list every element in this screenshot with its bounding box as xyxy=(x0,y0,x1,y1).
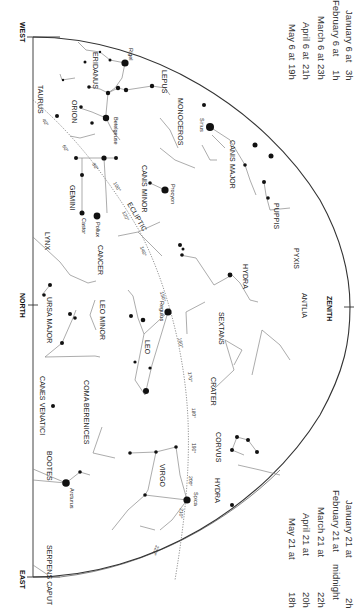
constellation-label: URSA MAJOR xyxy=(46,297,53,344)
constellation-label: CANIS MAJOR xyxy=(229,140,236,189)
star-label: Sirius xyxy=(199,118,205,132)
constellation-label: LEPUS xyxy=(161,70,168,94)
constellation-label: SEXTANS xyxy=(218,312,225,345)
viewing-time-value: 19h xyxy=(287,64,298,80)
ecliptic-degree: 60° xyxy=(61,144,70,154)
label-west: WEST xyxy=(19,22,26,43)
star-label: Arcturus xyxy=(69,488,75,509)
constellation-label: BOOTES xyxy=(46,451,53,481)
sky-boundary-arc-inner xyxy=(60,470,280,577)
constellation-label: COMA BERENICES xyxy=(83,380,90,445)
ecliptic-degree: 200° xyxy=(188,476,194,487)
constellation-label: CANCER xyxy=(97,245,104,275)
ecliptic-degree: 40° xyxy=(41,118,50,128)
constellation-label: CRATER xyxy=(210,377,217,406)
constellation-label: SERPENS CAPUT xyxy=(46,545,53,606)
constellation-label: ERIDANUS xyxy=(92,52,99,89)
ecliptic-degree: 100° xyxy=(112,181,122,193)
viewing-time-date: February 6 at xyxy=(331,0,342,57)
label-zenith: ZENITH xyxy=(326,296,333,321)
constellation-label: CANES VENATICI xyxy=(39,376,46,435)
star-label: Procyon xyxy=(170,184,176,204)
ecliptic-degree: 180° xyxy=(191,408,197,419)
viewing-time-value: 21h xyxy=(301,64,312,80)
viewing-time-date: April 21 at xyxy=(301,513,312,556)
ecliptic-degree: 210° xyxy=(178,508,185,519)
ecliptic-degree: 120° xyxy=(121,210,131,222)
viewing-time-value: 1h xyxy=(331,70,342,81)
viewing-time-value: 3h xyxy=(344,70,354,81)
star-chart: WEST NORTH EAST ZENITH January 6 at 3h F… xyxy=(0,0,354,613)
viewing-time-date: January 6 at xyxy=(344,10,354,63)
viewing-time-date: January 21 at xyxy=(344,500,354,558)
viewing-time-date: April 6 at xyxy=(301,22,312,60)
viewing-time-date: May 6 at xyxy=(287,24,298,61)
constellation-label: PUPPIS xyxy=(273,203,280,230)
star-label: Spica xyxy=(193,492,199,507)
constellation-label: LYNX xyxy=(44,232,51,250)
constellation-label: LEO xyxy=(144,340,151,355)
constellation-label: LEO MINOR xyxy=(99,300,106,340)
viewing-time-date: February 21 at xyxy=(331,490,342,552)
constellation-label: CORVUS xyxy=(215,432,222,463)
viewing-time-value: 18h xyxy=(287,592,298,608)
constellation-label: CANIS MINOR xyxy=(141,165,148,213)
viewing-time-value: 22h xyxy=(316,592,327,608)
ecliptic-degree: 140° xyxy=(139,245,148,257)
viewing-time-value: 23h xyxy=(316,64,327,80)
constellation-label: MONOCEROS xyxy=(177,98,184,146)
star-label: Rigel xyxy=(128,48,134,61)
constellation-label: PYXIS xyxy=(293,248,300,269)
ecliptic-degree: 80° xyxy=(91,162,100,172)
viewing-time-value: midnight xyxy=(331,564,342,600)
label-north: NORTH xyxy=(19,293,26,318)
constellation-label: ANTLIA xyxy=(301,293,308,318)
ecliptic-degree: 170° xyxy=(187,372,194,383)
constellation-label: GEMINI xyxy=(69,185,76,211)
ecliptic-degree: 160° xyxy=(177,337,185,348)
viewing-time-date: May 21 at xyxy=(287,518,298,560)
ecliptic-degree: 220° xyxy=(152,545,161,557)
constellation-label: TAURUS xyxy=(37,85,44,114)
viewing-time-date: March 21 at xyxy=(316,507,327,558)
label-east: EAST xyxy=(19,570,26,589)
constellation-label: ORION xyxy=(71,100,78,123)
viewing-time-value: 20h xyxy=(301,592,312,608)
ecliptic-line xyxy=(33,100,188,580)
viewing-times-bottom: January 21 at 2h February 21 at midnight… xyxy=(287,490,354,609)
ecliptic-degree: 190° xyxy=(191,443,197,453)
star-label: Pollux xyxy=(95,222,101,237)
star-label: Betelgeuse xyxy=(113,117,119,145)
constellation-label: HYDRA xyxy=(242,264,249,289)
viewing-time-date: March 6 at xyxy=(316,16,327,61)
star-label: Regulus xyxy=(159,301,165,321)
viewing-times-top: January 6 at 3h February 6 at 1h March 6… xyxy=(287,0,354,81)
constellation-label: VIRGO xyxy=(159,464,166,488)
star-label: Castor xyxy=(81,218,87,234)
viewing-time-value: 2h xyxy=(344,598,354,609)
constellation-label: HYDRA xyxy=(214,478,221,503)
